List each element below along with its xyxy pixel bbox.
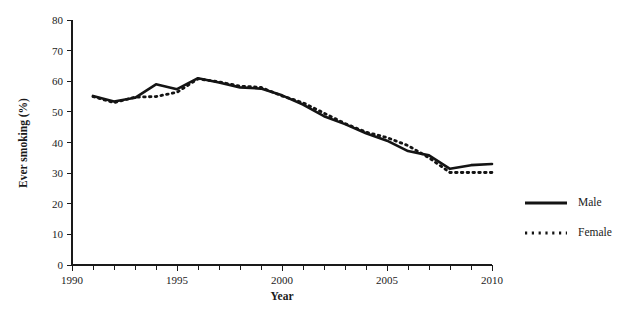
- x-tick-label: 2010: [481, 274, 504, 286]
- x-tick-label: 2005: [376, 274, 399, 286]
- x-tick-label: 2000: [271, 274, 294, 286]
- y-tick-label: 10: [52, 228, 64, 240]
- y-axis-title: Ever smoking (%): [17, 98, 30, 188]
- x-axis-title: Year: [271, 290, 294, 302]
- y-tick-label: 70: [52, 45, 64, 57]
- y-tick-label: 20: [52, 198, 64, 210]
- y-tick-label: 30: [52, 167, 64, 179]
- ever-smoking-line-chart: 01020304050607080 19901995200020052010 Y…: [0, 0, 642, 317]
- y-tick-group: 01020304050607080: [52, 14, 72, 271]
- x-tick-label: 1990: [61, 274, 84, 286]
- x-tick-group: 19901995200020052010: [61, 265, 504, 286]
- y-tick-label: 50: [52, 106, 64, 118]
- y-tick-label: 0: [58, 259, 64, 271]
- chart-figure: 01020304050607080 19901995200020052010 Y…: [0, 0, 642, 317]
- data-series-group: [93, 78, 492, 172]
- legend: Male Female: [525, 196, 612, 238]
- y-tick-label: 80: [52, 14, 64, 26]
- x-tick-label: 1995: [166, 274, 189, 286]
- y-tick-label: 60: [52, 75, 64, 87]
- legend-label-female: Female: [578, 226, 612, 238]
- legend-label-male: Male: [578, 196, 602, 208]
- y-tick-label: 40: [52, 137, 64, 149]
- series-line-male: [93, 78, 492, 169]
- series-line-female: [93, 79, 492, 173]
